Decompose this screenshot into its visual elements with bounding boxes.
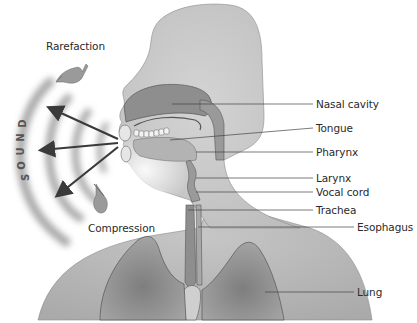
label-tongue: Tongue [316, 122, 353, 134]
upper-lip [119, 125, 131, 141]
label-trachea: Trachea [316, 204, 356, 216]
label-vocal-cord: Vocal cord [316, 186, 369, 198]
label-nasal-cavity: Nasal cavity [316, 98, 379, 110]
label-pharynx: Pharynx [316, 146, 358, 158]
sound-letter-o: O [16, 161, 27, 170]
compression-label: Compression [88, 222, 155, 234]
lower-lip [121, 146, 131, 162]
rarefaction-label: Rarefaction [46, 40, 105, 52]
label-lung: Lung [357, 286, 382, 298]
sound-letter-n: N [15, 133, 26, 141]
trachea [183, 205, 202, 320]
label-larynx: Larynx [316, 172, 351, 184]
sound-letter-u: U [15, 147, 26, 155]
sound-waves [20, 82, 106, 242]
sound-letter-d: D [17, 119, 28, 127]
sound-letter-s: S [20, 174, 31, 181]
label-esophagus: Esophagus [357, 221, 413, 233]
sound-production-diagram: Rarefaction Compression S O U N D Nasal … [0, 0, 417, 323]
rarefaction-hand-icon [56, 64, 88, 83]
